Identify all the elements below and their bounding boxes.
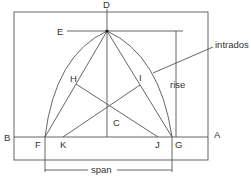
label-e: E	[57, 26, 63, 37]
line-i-k	[63, 85, 140, 137]
label-i: I	[139, 72, 142, 83]
label-g: G	[175, 139, 182, 150]
label-h: H	[70, 73, 77, 84]
label-b: B	[4, 132, 10, 143]
label-rise: rise	[170, 79, 185, 90]
label-k: K	[60, 139, 67, 150]
label-f: F	[35, 139, 41, 150]
label-a: A	[214, 129, 221, 140]
label-d: D	[103, 0, 110, 10]
label-intrados: intrados	[215, 39, 249, 50]
intrados-leader	[153, 47, 213, 73]
arch-diagram: D E H I C B F K J G A intrados rise span	[0, 0, 251, 180]
apex-point	[105, 29, 108, 32]
line-h-j	[76, 84, 158, 137]
label-j: J	[155, 139, 160, 150]
label-c: C	[113, 117, 120, 128]
label-span: span	[91, 164, 112, 175]
